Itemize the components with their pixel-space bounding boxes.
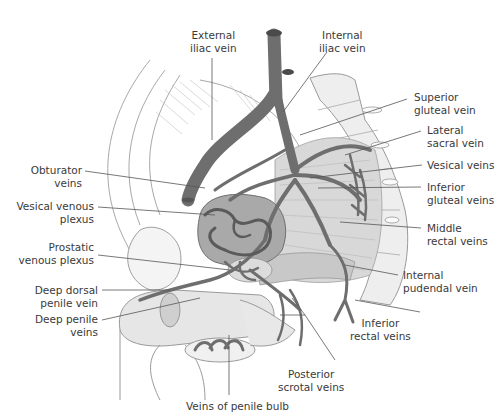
label-line: Deep penile (22, 313, 98, 326)
label-line: rectal veins (350, 330, 411, 343)
label-internal-iliac-vein: Internal iliac vein (319, 29, 366, 55)
label-line: Deep dorsal (22, 284, 98, 297)
label-deep-penile-veins: Deep penile veins (22, 313, 98, 339)
label-line: Vesical venous (4, 200, 94, 213)
internal-iliac-vein-cut-end (282, 69, 294, 75)
pubic-bone (128, 227, 181, 290)
label-line: Inferior (350, 317, 411, 330)
common-iliac-vein-cut-end (266, 30, 282, 37)
label-veins-of-penile-bulb: Veins of penile bulb (186, 400, 289, 413)
label-inferior-rectal-veins: Inferior rectal veins (350, 317, 411, 343)
label-line: Vesical veins (427, 159, 494, 172)
label-obturator-veins: Obturator veins (4, 164, 82, 190)
label-line: veins (22, 326, 98, 339)
label-line: Prostatic (12, 241, 94, 254)
label-inferior-gluteal-veins: Inferior gluteal veins (427, 181, 494, 207)
label-line: veins (4, 177, 82, 190)
label-line: Internal (319, 29, 366, 42)
label-line: venous plexus (12, 254, 94, 267)
label-internal-pudendal-vein: Internal pudendal vein (403, 269, 478, 295)
label-line: Superior (414, 91, 476, 104)
label-line: penile vein (22, 297, 98, 310)
penis (119, 290, 295, 400)
label-prostatic-venous-plexus: Prostatic venous plexus (12, 241, 94, 267)
label-line: plexus (4, 213, 94, 226)
label-line: iliac vein (190, 42, 237, 55)
label-line: rectal veins (427, 235, 488, 248)
label-external-iliac-vein: External iliac vein (190, 29, 237, 55)
label-line: sacral vein (427, 137, 484, 150)
label-middle-rectal-veins: Middle rectal veins (427, 222, 488, 248)
label-line: Internal (403, 269, 478, 282)
label-line: Veins of penile bulb (186, 400, 289, 413)
label-line: External (190, 29, 237, 42)
label-line: Obturator (4, 164, 82, 177)
label-line: Middle (427, 222, 488, 235)
label-line: Inferior (427, 181, 494, 194)
label-line: Posterior (278, 368, 344, 381)
label-line: Lateral (427, 124, 484, 137)
label-vesical-veins: Vesical veins (427, 159, 494, 172)
label-vesical-venous-plexus: Vesical venous plexus (4, 200, 94, 226)
label-posterior-scrotal-veins: Posterior scrotal veins (278, 368, 344, 394)
external-iliac-vein-end (182, 198, 194, 203)
label-line: scrotal veins (278, 381, 344, 394)
label-line: gluteal veins (427, 194, 494, 207)
label-superior-gluteal-vein: Superior gluteal vein (414, 91, 476, 117)
label-line: pudendal vein (403, 282, 478, 295)
label-line: iliac vein (319, 42, 366, 55)
label-line: gluteal vein (414, 104, 476, 117)
label-lateral-sacral-vein: Lateral sacral vein (427, 124, 484, 150)
label-deep-dorsal-penile-vein: Deep dorsal penile vein (22, 284, 98, 310)
